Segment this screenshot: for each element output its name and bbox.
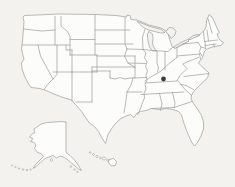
aleutian-islands [26, 169, 28, 171]
aleutian-islands [11, 165, 12, 166]
aleutian-islands [30, 169, 31, 170]
aleutian-islands [18, 168, 19, 169]
hawaii-islands [103, 157, 106, 160]
alaska-panhandle-islands [50, 159, 53, 162]
alaska-panhandle-islands [74, 169, 76, 171]
hawaii-islands [96, 155, 98, 157]
aleutian-islands [15, 166, 16, 167]
aleutian-islands [22, 169, 24, 171]
hawaii-islands [100, 157, 102, 159]
hawaii-islands [93, 154, 95, 156]
hawaii-islands [89, 152, 91, 154]
map-panel: United States map [0, 0, 235, 187]
us-map[interactable]: United States map [0, 0, 235, 187]
hawaii-islands [107, 159, 109, 161]
hawaii-big-island [109, 159, 117, 167]
alaska-panhandle-islands [77, 171, 78, 172]
alaska-panhandle-islands [70, 166, 72, 168]
location-marker[interactable] [161, 77, 166, 82]
alaska [30, 122, 82, 171]
